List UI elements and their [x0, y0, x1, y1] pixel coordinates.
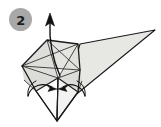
step-badge: 2 [9, 8, 32, 31]
origami-diagram-canvas: 2 [0, 0, 161, 127]
origami-diagram-figure: 2 [0, 0, 161, 127]
step-badge-label: 2 [16, 13, 25, 28]
